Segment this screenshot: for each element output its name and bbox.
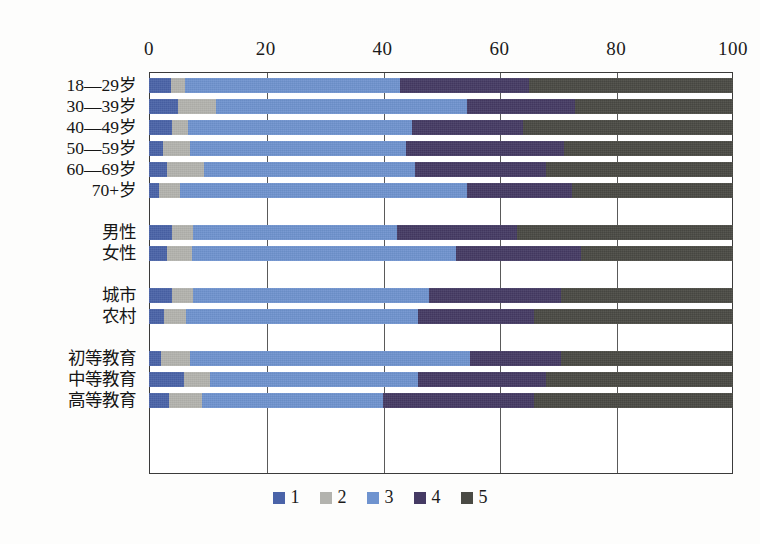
bar-segment-series-5 xyxy=(564,141,733,156)
bar-segment-series-3 xyxy=(186,309,417,324)
category-label-7: 女性 xyxy=(102,245,136,262)
bar-segment-series-4 xyxy=(415,162,546,177)
bar-segment-series-5 xyxy=(572,183,733,198)
bar-segment-series-5 xyxy=(529,78,733,93)
x-tick-label-0: 0 xyxy=(144,38,154,60)
x-tick-label-100: 100 xyxy=(718,38,748,60)
bar-segment-series-4 xyxy=(412,120,523,135)
bar-segment-series-3 xyxy=(190,351,470,366)
bar-segment-series-4 xyxy=(470,351,561,366)
bar-row xyxy=(149,162,733,177)
category-label-1: 30—39岁 xyxy=(67,98,137,115)
bar-segment-series-2 xyxy=(167,162,205,177)
legend-swatch-icon-3 xyxy=(367,492,379,504)
bar-segment-series-4 xyxy=(429,288,560,303)
bar-segment-series-1 xyxy=(149,288,172,303)
legend-item-5[interactable]: 5 xyxy=(461,487,488,508)
bar-segment-series-1 xyxy=(149,141,163,156)
category-label-11: 中等教育 xyxy=(68,371,136,388)
bar-segment-series-2 xyxy=(167,246,193,261)
bar-row xyxy=(149,183,733,198)
legend-swatch-icon-2 xyxy=(320,492,332,504)
legend-item-3[interactable]: 3 xyxy=(367,487,394,508)
bar-segment-series-3 xyxy=(216,99,467,114)
legend-label-4: 4 xyxy=(432,487,441,508)
bar-segment-series-3 xyxy=(210,372,417,387)
bar-segment-series-2 xyxy=(178,99,216,114)
bar-segment-series-1 xyxy=(149,225,172,240)
bar-segment-series-4 xyxy=(418,309,535,324)
category-label-12: 高等教育 xyxy=(68,392,136,409)
bar-segment-series-2 xyxy=(172,288,192,303)
bar-series-container xyxy=(149,72,733,474)
bar-segment-series-5 xyxy=(575,99,733,114)
bar-row xyxy=(149,99,733,114)
legend-item-2[interactable]: 2 xyxy=(320,487,347,508)
bar-segment-series-2 xyxy=(161,351,190,366)
legend-swatch-icon-4 xyxy=(414,492,426,504)
stacked-bar-chart: 020406080100 18—29岁30—39岁40—49岁50—59岁60—… xyxy=(0,0,760,544)
bar-segment-series-4 xyxy=(467,183,572,198)
bar-segment-series-5 xyxy=(546,162,733,177)
bar-row xyxy=(149,351,733,366)
bar-segment-series-3 xyxy=(192,246,455,261)
legend-item-1[interactable]: 1 xyxy=(273,487,300,508)
x-tick-label-40: 40 xyxy=(373,38,393,60)
bar-segment-series-1 xyxy=(149,393,169,408)
bar-segment-series-4 xyxy=(383,393,535,408)
bar-row xyxy=(149,372,733,387)
bar-segment-series-1 xyxy=(149,183,159,198)
bar-segment-series-1 xyxy=(149,99,178,114)
category-label-10: 初等教育 xyxy=(68,350,136,367)
category-label-2: 40—49岁 xyxy=(67,119,137,136)
bar-segment-series-4 xyxy=(406,141,564,156)
bar-row xyxy=(149,246,733,261)
bar-segment-series-4 xyxy=(456,246,582,261)
bar-segment-series-5 xyxy=(561,351,733,366)
category-label-3: 50—59岁 xyxy=(67,140,137,157)
bar-row xyxy=(149,120,733,135)
bar-segment-series-3 xyxy=(180,183,467,198)
bar-segment-series-2 xyxy=(169,393,201,408)
bar-segment-series-3 xyxy=(204,162,414,177)
chart-legend: 12345 xyxy=(0,487,760,508)
bar-segment-series-2 xyxy=(171,78,185,93)
bar-segment-series-1 xyxy=(149,309,164,324)
bar-segment-series-5 xyxy=(561,288,733,303)
bar-segment-series-1 xyxy=(149,78,171,93)
bar-segment-series-1 xyxy=(149,120,172,135)
category-label-6: 男性 xyxy=(102,224,136,241)
bar-segment-series-2 xyxy=(172,120,188,135)
category-label-4: 60—69岁 xyxy=(67,161,137,178)
bar-segment-series-3 xyxy=(193,288,430,303)
bar-segment-series-5 xyxy=(523,120,733,135)
bar-row xyxy=(149,393,733,408)
legend-label-2: 2 xyxy=(338,487,347,508)
bar-segment-series-2 xyxy=(164,309,186,324)
bar-segment-series-5 xyxy=(517,225,733,240)
bar-segment-series-4 xyxy=(400,78,528,93)
bar-segment-series-5 xyxy=(581,246,733,261)
bar-segment-series-3 xyxy=(190,141,406,156)
bar-row xyxy=(149,78,733,93)
x-axis-tick-labels: 020406080100 xyxy=(149,38,733,64)
bar-segment-series-2 xyxy=(172,225,192,240)
bar-row xyxy=(149,141,733,156)
bar-segment-series-5 xyxy=(534,309,733,324)
legend-swatch-icon-5 xyxy=(461,492,473,504)
legend-item-4[interactable]: 4 xyxy=(414,487,441,508)
x-tick-label-20: 20 xyxy=(256,38,276,60)
bar-segment-series-3 xyxy=(202,393,383,408)
y-axis-category-labels: 18—29岁30—39岁40—49岁50—59岁60—69岁70+岁男性女性城市… xyxy=(0,72,144,474)
category-label-8: 城市 xyxy=(102,287,136,304)
bar-segment-series-1 xyxy=(149,162,167,177)
category-label-5: 70+岁 xyxy=(92,182,136,199)
x-tick-label-60: 60 xyxy=(489,38,509,60)
legend-label-3: 3 xyxy=(385,487,394,508)
category-label-9: 农村 xyxy=(102,308,136,325)
bar-segment-series-1 xyxy=(149,372,184,387)
bar-segment-series-5 xyxy=(534,393,733,408)
bar-segment-series-4 xyxy=(418,372,546,387)
bar-segment-series-2 xyxy=(184,372,210,387)
bar-segment-series-5 xyxy=(546,372,733,387)
